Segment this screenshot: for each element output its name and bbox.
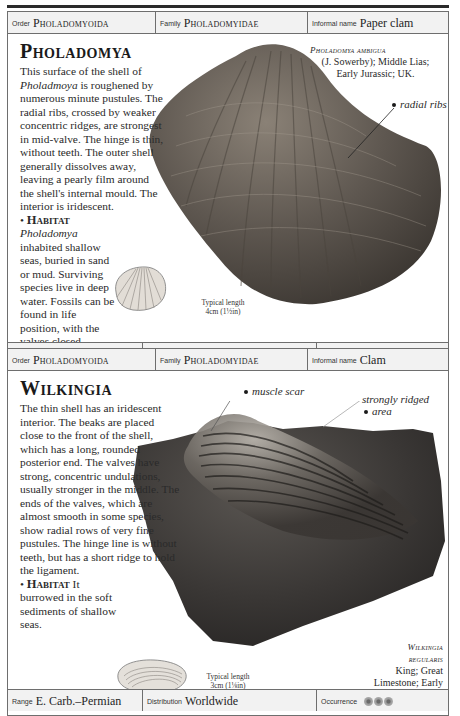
informal-name-value: Paper clam [360,16,414,30]
fossil-entry-pholadomya: OrderPholadomyoida FamilyPholadomyidae I… [7,11,449,365]
classification-header: OrderPholadomyoida FamilyPholadomyidae I… [8,349,448,371]
callout-strongly-ridged-area: strongly ridged area [362,393,429,417]
callout-muscle-scar: muscle scar [244,385,304,397]
entry-body: Wilkingia The thin shell has an iridesce… [8,371,448,689]
order-cell: OrderPholadomyoida [8,349,156,370]
occurrence-dot-icon [374,697,383,706]
callout-dot-icon [392,103,396,107]
informal-name-cell: Informal nameClam [308,349,448,370]
occurrence-dot-icon [384,697,393,706]
callout-radial-ribs: radial ribs [392,98,447,110]
genus-description: The thin shell has an iridescent interio… [20,402,180,632]
occurrence-rating [363,694,393,708]
order-value: Pholadomyoida [33,353,109,367]
order-label: Order [12,20,30,27]
classification-header: OrderPholadomyoida FamilyPholadomyidae I… [8,12,448,34]
species-name: Pholadomya ambigua [308,44,443,56]
habitat-label: Habitat [27,213,70,227]
range-cell: RangeE. Carb.–Permian [8,690,143,711]
specimen-caption: Pholadomya ambigua (J. Sowerby); Middle … [308,44,443,80]
typical-length: Typical length 4cm (1½in) [188,298,258,316]
family-cell: FamilyPholadomyidae [156,12,308,33]
family-label: Family [160,20,181,27]
typical-length: Typical length 3cm (1⅛in) [193,672,263,690]
informal-name-cell: Informal namePaper clam [308,12,448,33]
genus-description: This surface of the shell of Pholadmoya … [20,65,165,349]
genus-title: Wilkingia [20,377,112,400]
entry-body: Pholadomya This surface of the shell of … [8,34,448,322]
order-cell: OrderPholadomyoida [8,12,156,33]
fossil-entry-wilkingia: OrderPholadomyoida FamilyPholadomyidae I… [7,348,449,716]
habitat-section: • Habitat Pholadomya inhabited shallow s… [20,214,115,349]
family-value: Pholadomyidae [184,16,259,30]
family-cell: FamilyPholadomyidae [156,349,308,370]
distribution-value: Worldwide [185,694,238,708]
family-value: Pholadomyidae [184,353,259,367]
habitat-section: • Habitat It burrowed in the soft sedime… [20,578,120,632]
callout-dot-icon [364,410,368,414]
distribution-cell: DistributionWorldwide [143,690,317,711]
occurrence-cell: Occurrence [317,690,448,711]
informal-name-value: Clam [360,353,386,367]
genus-title: Pholadomya [20,40,132,63]
species-name: Wilkingia [313,641,443,653]
informal-name-label: Informal name [312,20,357,27]
order-value: Pholadomyoida [33,16,109,30]
top-rule [7,5,449,8]
wilkingia-fossil-image [133,401,451,651]
range-value: E. Carb.–Permian [36,694,122,708]
habitat-label: Habitat [27,577,70,591]
range-footer: RangeE. Carb.–Permian DistributionWorldw… [8,689,448,711]
callout-dot-icon [244,390,248,394]
occurrence-dot-icon [364,697,373,706]
